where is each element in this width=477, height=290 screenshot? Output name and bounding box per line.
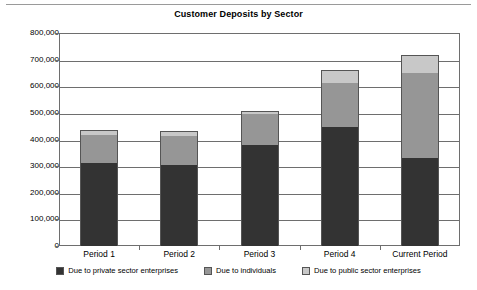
bar-stack bbox=[401, 55, 439, 246]
x-axis-tick-label: Period 1 bbox=[59, 249, 139, 260]
bar-segment-medium[interactable] bbox=[80, 135, 118, 163]
y-axis-tick-label: 200,000 bbox=[7, 189, 59, 197]
bar-stack bbox=[160, 131, 198, 246]
chart-title: Customer Deposits by Sector bbox=[0, 9, 477, 19]
legend-item[interactable]: Due to private sector enterprises bbox=[56, 266, 178, 275]
x-axis-tick-mark bbox=[380, 246, 381, 250]
y-axis-tick-label: 300,000 bbox=[7, 162, 59, 170]
legend-swatch-icon bbox=[302, 267, 310, 275]
bar-segment-dark[interactable] bbox=[80, 163, 118, 246]
legend-swatch-icon bbox=[204, 267, 212, 275]
x-axis-tick-label: Period 3 bbox=[219, 249, 299, 260]
y-axis-tick-label: 500,000 bbox=[7, 109, 59, 117]
x-axis-tick-mark bbox=[219, 246, 220, 250]
x-axis-tick-mark bbox=[139, 246, 140, 250]
bar-stack bbox=[80, 130, 118, 246]
y-axis-tick-label: 600,000 bbox=[7, 82, 59, 90]
legend-item[interactable]: Due to public sector enterprises bbox=[302, 266, 421, 275]
bar-group[interactable] bbox=[401, 33, 439, 246]
x-axis-tick-label: Period 2 bbox=[139, 249, 219, 260]
legend-item[interactable]: Due to individuals bbox=[204, 266, 276, 275]
legend-label: Due to private sector enterprises bbox=[68, 266, 178, 275]
top-divider bbox=[6, 4, 471, 5]
bar-segment-medium[interactable] bbox=[241, 114, 279, 145]
y-axis-tick-mark bbox=[55, 246, 59, 247]
x-axis: Period 1Period 2Period 3Period 4Current … bbox=[59, 249, 460, 263]
bar-group[interactable] bbox=[241, 33, 279, 246]
bar-group[interactable] bbox=[321, 33, 359, 246]
bar-segment-dark[interactable] bbox=[241, 145, 279, 246]
y-axis-tick-label: 700,000 bbox=[7, 56, 59, 64]
bar-group[interactable] bbox=[160, 33, 198, 246]
y-axis-tick-label: 100,000 bbox=[7, 215, 59, 223]
bar-stack bbox=[241, 111, 279, 246]
bar-segment-medium[interactable] bbox=[160, 136, 198, 165]
chart-legend: Due to private sector enterprisesDue to … bbox=[0, 266, 477, 275]
bar-group[interactable] bbox=[80, 33, 118, 246]
bars-layer bbox=[59, 33, 460, 246]
x-axis-tick-label: Period 4 bbox=[300, 249, 380, 260]
bar-segment-dark[interactable] bbox=[401, 158, 439, 246]
bar-segment-dark[interactable] bbox=[160, 165, 198, 246]
bar-segment-medium[interactable] bbox=[401, 73, 439, 158]
bar-segment-dark[interactable] bbox=[321, 127, 359, 246]
bar-segment-medium[interactable] bbox=[321, 83, 359, 127]
bar-segment-light[interactable] bbox=[401, 55, 439, 73]
x-axis-tick-label: Current Period bbox=[380, 249, 460, 260]
y-axis-tick-label: 800,000 bbox=[7, 29, 59, 37]
legend-label: Due to individuals bbox=[216, 266, 276, 275]
x-axis-tick-mark bbox=[300, 246, 301, 250]
y-axis-tick-label: 0 bbox=[7, 242, 59, 250]
y-axis-tick-label: 400,000 bbox=[7, 136, 59, 144]
legend-label: Due to public sector enterprises bbox=[314, 266, 421, 275]
legend-swatch-icon bbox=[56, 267, 64, 275]
bar-stack bbox=[321, 70, 359, 246]
bar-segment-light[interactable] bbox=[321, 70, 359, 83]
y-axis: 800,000700,000600,000500,000400,000300,0… bbox=[0, 0, 59, 290]
